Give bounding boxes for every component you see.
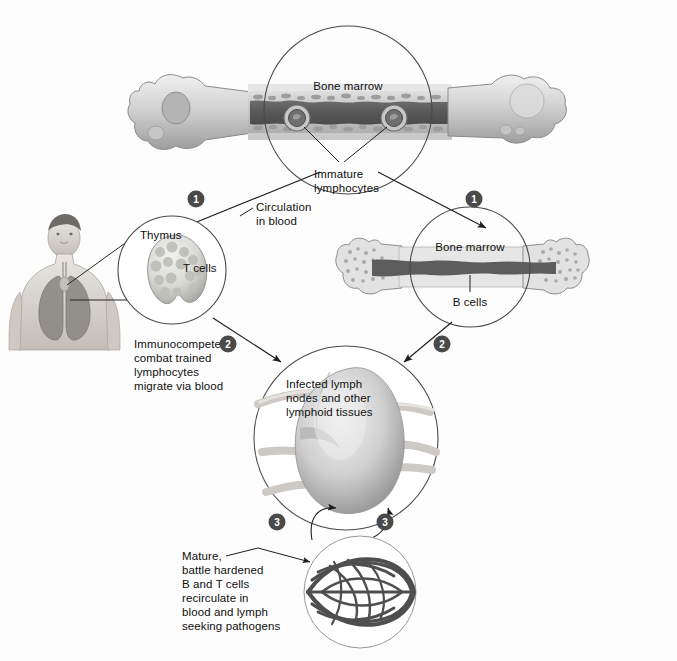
bone-marrow-right-label: Bone marrow	[435, 241, 505, 253]
thymus-label: Thymus	[140, 229, 182, 241]
step-badge-3-right-number: 3	[382, 517, 388, 528]
infected-lymph-label-line2: nodes and other	[286, 392, 371, 404]
mature-label-line5: blood and lymph	[182, 606, 268, 618]
condyle-detail-a	[500, 125, 512, 135]
step-badge-2-right: 2	[434, 336, 451, 353]
mature-label-line3: B and T cells	[182, 578, 250, 590]
step-badge-2-left-number: 2	[225, 339, 231, 350]
leader-circulation	[240, 208, 253, 216]
diagram-canvas: Bone marrow Immature lymphocytes Circula…	[0, 0, 677, 661]
bone-right	[336, 207, 589, 327]
condyle-detail-b	[515, 127, 525, 135]
immature-lymphocytes-label-line1: Immature	[314, 168, 363, 180]
mature-label-line6: seeking pathogens	[182, 620, 280, 632]
cortical-bone-bottom	[248, 133, 452, 140]
femur-head-hollow	[162, 92, 190, 124]
t-cells-label: T cells	[183, 262, 217, 274]
condyle-highlight	[510, 84, 544, 118]
figure-arm-right	[106, 292, 120, 350]
lymphocyte-development-figure: Bone marrow Immature lymphocytes Circula…	[0, 0, 677, 661]
step-badge-2-left: 2	[220, 336, 237, 353]
immunocompetent-label-line1: Immunocompetent,	[134, 338, 234, 350]
step-badge-3-left: 3	[269, 514, 286, 531]
step-badge-2-right-number: 2	[439, 339, 445, 350]
femur-head-detail	[148, 126, 164, 140]
red-marrow-cavity	[250, 100, 452, 124]
bone-marrow-top-label: Bone marrow	[313, 80, 383, 92]
human-figure	[9, 214, 120, 350]
vessel-network	[304, 536, 416, 648]
figure-eye-right	[69, 233, 72, 235]
immunocompetent-label-line2: combat trained	[134, 352, 211, 364]
immature-lymphocyte-right	[381, 105, 407, 131]
step-badge-1-left: 1	[188, 191, 205, 208]
b-cells-label: B cells	[453, 296, 488, 308]
immature-lymphocyte-left	[284, 105, 310, 131]
mature-label-line4: recirculate in	[182, 592, 249, 604]
mature-label-line2: battle hardened	[182, 564, 263, 576]
immunocompetent-label-line3: lymphocytes	[134, 366, 199, 378]
step-badge-1-right-number: 1	[471, 194, 477, 205]
lymph-node	[254, 346, 438, 530]
mature-label-line1: Mature,	[182, 550, 222, 562]
step-badge-3-left-number: 3	[274, 517, 280, 528]
leader-mature-to-network	[226, 548, 310, 562]
step-badge-3-right: 3	[377, 514, 394, 531]
infected-lymph-label-line3: lymphoid tissues	[286, 406, 373, 418]
figure-arm-left	[9, 292, 22, 350]
figure-eye-left	[56, 233, 59, 235]
infected-lymph-label-line1: Infected lymph	[286, 378, 362, 390]
immunocompetent-label-line4: migrate via blood	[134, 380, 223, 392]
immature-lymphocytes-label-line2: lymphocytes	[314, 182, 379, 194]
step-badge-1-right: 1	[466, 191, 483, 208]
step-badge-1-left-number: 1	[193, 194, 199, 205]
circulation-label-line1: Circulation	[256, 201, 311, 213]
circulation-label-line2: in blood	[256, 215, 297, 227]
